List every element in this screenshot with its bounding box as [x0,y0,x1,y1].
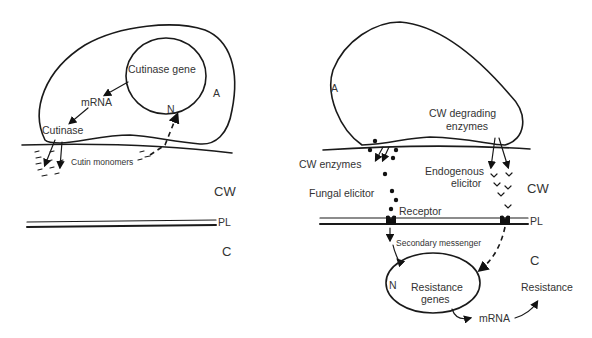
label-left-mrna: mRNA [81,97,112,108]
label-cutinase: Cutinase [42,125,83,136]
label-secondary-messenger: Secondary messenger [396,239,481,248]
label-resistance-genes-line2: genes [421,294,450,305]
endogenous-elicitor-chevrons [491,173,512,208]
label-receptor: Receptor [399,206,442,217]
receptor-right [500,215,510,225]
label-right-mrna: mRNA [479,313,510,324]
label-left-plasmalemma: PL [218,217,231,228]
receptor-left [386,215,396,225]
label-cutinase-gene: Cutinase gene [128,64,196,75]
right-cuticle-line [323,146,530,150]
label-resistance-genes-line1: Resistance [411,282,463,293]
label-right-cytoplasm: C [530,254,539,267]
label-cw-degrading-enzymes: enzymes [446,121,488,132]
label-resistance: Resistance [521,282,573,293]
left-nucleus [126,38,206,114]
label-left-cytoplasm: C [222,245,231,258]
right-appressorium [331,22,523,145]
label-left-nucleus: N [167,104,175,115]
label-cw-enzymes: CW enzymes [299,159,361,170]
label-right-cell-wall: CW [527,182,549,195]
label-cutin-monomers: Cutin monomers [71,158,133,167]
label-cw-degrading: CW degrading [429,108,496,119]
label-endogenous: Endogenous [425,166,484,177]
label-fungal-elicitor: Fungal elicitor [309,188,374,199]
label-left-cell-wall: CW [214,185,236,198]
label-right-appressorium: A [331,83,338,94]
label-right-plasmalemma: PL [530,216,543,227]
label-left-appressorium: A [213,88,220,99]
diagram-canvas [0,0,592,338]
label-right-nucleus: N [389,280,397,291]
label-elicitor: elicitor [451,178,481,189]
